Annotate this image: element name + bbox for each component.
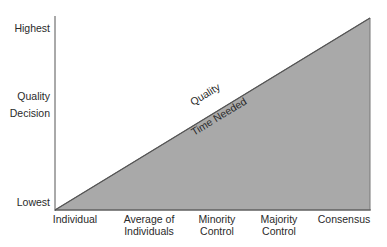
x-label-line1: Average of xyxy=(114,213,184,225)
line-label-quality: Quality xyxy=(188,80,223,108)
y-tick-highest: Highest xyxy=(0,22,50,34)
x-label-line2: Control xyxy=(244,225,314,237)
x-label-line2: Control xyxy=(182,225,252,237)
x-label-minority-control: Minority Control xyxy=(182,213,252,237)
x-label-line1: Individual xyxy=(40,213,110,225)
x-label-line1: Minority xyxy=(182,213,252,225)
x-label-line2: Individuals xyxy=(114,225,184,237)
x-label-consensus: Consensus xyxy=(309,213,379,225)
x-label-line1: Consensus xyxy=(309,213,379,225)
x-label-average-of-individuals: Average of Individuals xyxy=(114,213,184,237)
x-label-individual: Individual xyxy=(40,213,110,225)
x-label-line1: Majority xyxy=(244,213,314,225)
y-tick-lowest: Lowest xyxy=(0,196,50,208)
y-title-line2: Decision xyxy=(0,107,50,119)
y-title-line1: Quality xyxy=(0,90,50,102)
x-label-majority-control: Majority Control xyxy=(244,213,314,237)
chart-plot: Quality Time Needed xyxy=(0,0,387,247)
